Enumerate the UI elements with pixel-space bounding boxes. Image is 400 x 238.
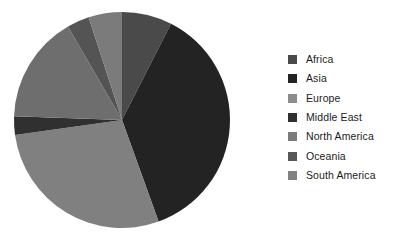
legend-item-south-america[interactable]: South America (288, 166, 400, 185)
pie-plot-area: AfricaAsiaEuropeMiddle EastNorth America… (0, 0, 262, 238)
legend-label: North America (306, 131, 374, 142)
pie-chart-figure: AfricaAsiaEuropeMiddle EastNorth America… (0, 0, 400, 238)
legend-item-africa[interactable]: Africa (288, 50, 400, 69)
legend-swatch-south-america (288, 171, 297, 180)
pie-svg: AfricaAsiaEuropeMiddle EastNorth America… (0, 0, 262, 238)
legend-label: Asia (306, 73, 327, 84)
legend-label: South America (306, 170, 376, 181)
legend-swatch-middle-east (288, 113, 297, 122)
legend-item-asia[interactable]: Asia (288, 69, 400, 88)
legend-label: Africa (306, 54, 333, 65)
legend-label: Oceania (306, 151, 346, 162)
legend-item-oceania[interactable]: Oceania (288, 146, 400, 165)
chart-legend: AfricaAsiaEuropeMiddle EastNorth America… (288, 50, 400, 185)
legend-swatch-europe (288, 94, 297, 103)
legend-swatch-oceania (288, 152, 297, 161)
legend-label: Middle East (306, 112, 362, 123)
legend-label: Europe (306, 93, 340, 104)
legend-swatch-africa (288, 55, 297, 64)
legend-item-north-america[interactable]: North America (288, 127, 400, 146)
legend-swatch-north-america (288, 132, 297, 141)
legend-item-europe[interactable]: Europe (288, 89, 400, 108)
pie-slice-group: AfricaAsiaEuropeMiddle EastNorth America… (14, 12, 230, 228)
legend-item-middle-east[interactable]: Middle East (288, 108, 400, 127)
legend-swatch-asia (288, 74, 297, 83)
